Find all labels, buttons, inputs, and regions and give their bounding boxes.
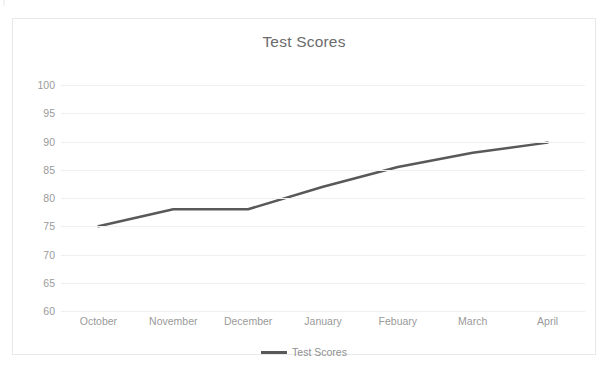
x-axis-tick-label: December	[224, 315, 272, 327]
scan-artifact	[3, 0, 5, 6]
plot-area	[61, 85, 585, 311]
x-axis-tick-label: April	[537, 315, 558, 327]
gridline	[61, 85, 585, 86]
gridline	[61, 255, 585, 256]
gridline	[61, 283, 585, 284]
chart-title: Test Scores	[13, 33, 595, 51]
gridline	[61, 170, 585, 171]
gridline	[61, 226, 585, 227]
y-axis-tick-label: 75	[43, 220, 55, 232]
gridline	[61, 113, 585, 114]
x-axis-tick-label: Febuary	[379, 315, 418, 327]
y-axis: 1009590858075706560	[31, 85, 55, 311]
gridline	[61, 142, 585, 143]
chart-legend: Test Scores	[13, 346, 595, 358]
x-axis-tick-label: October	[80, 315, 117, 327]
y-axis-tick-label: 70	[43, 249, 55, 261]
y-axis-tick-label: 95	[43, 107, 55, 119]
x-axis-tick-label: March	[458, 315, 487, 327]
line-swatch-icon	[261, 351, 287, 354]
y-axis-tick-label: 65	[43, 277, 55, 289]
y-axis-tick-label: 80	[43, 192, 55, 204]
x-axis-tick-label: November	[149, 315, 197, 327]
x-axis: OctoberNovemberDecemberJanuaryFebuaryMar…	[61, 315, 585, 331]
legend-label-test-scores: Test Scores	[292, 346, 347, 358]
gridline	[61, 311, 585, 312]
gridline	[61, 198, 585, 199]
x-axis-tick-label: January	[304, 315, 341, 327]
chart-container: Test Scores 1009590858075706560 OctoberN…	[12, 18, 596, 355]
y-axis-tick-label: 85	[43, 164, 55, 176]
y-axis-tick-label: 60	[43, 305, 55, 317]
y-axis-tick-label: 90	[43, 136, 55, 148]
y-axis-tick-label: 100	[37, 79, 55, 91]
